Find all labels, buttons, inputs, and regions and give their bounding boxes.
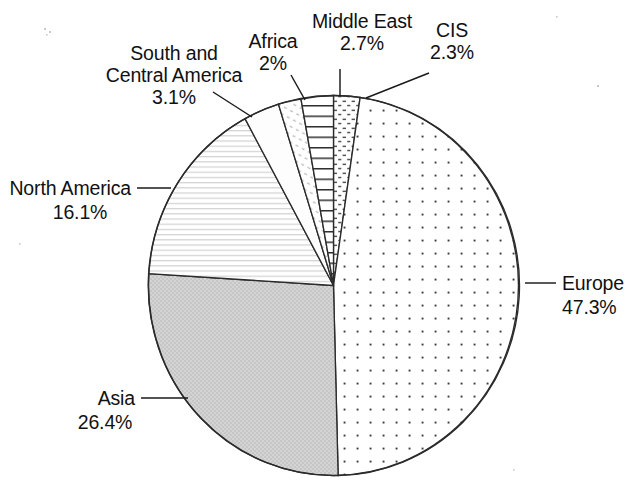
label-europe-percent: 47.3% <box>562 296 617 318</box>
pie-slice-asia[interactable] <box>148 274 338 476</box>
label-africa: Africa <box>249 30 298 52</box>
pie-slices <box>148 95 519 475</box>
label-south-central-america-percent: 3.1% <box>152 86 196 108</box>
label-asia: Asia <box>98 387 136 409</box>
leader-line-africa <box>291 75 305 100</box>
label-north-america: North America <box>9 177 131 199</box>
label-asia-percent: 26.4% <box>78 411 133 433</box>
label-africa-percent: 2% <box>259 52 287 74</box>
leader-line-south-central-america <box>213 92 252 117</box>
label-north-america-percent: 16.1% <box>53 201 108 223</box>
pie-chart-figure: South and Central America 3.1% Africa 2%… <box>0 0 634 496</box>
label-south-central-america-line2: Central America <box>106 64 243 86</box>
label-cis-percent: 2.3% <box>430 41 474 63</box>
label-middle-east-percent: 2.7% <box>340 32 384 54</box>
pie-slice-europe[interactable] <box>334 97 520 475</box>
label-europe: Europe <box>562 272 624 294</box>
label-south-central-america-line1: South and <box>130 42 218 64</box>
pie-chart-svg: South and Central America 3.1% Africa 2%… <box>0 0 634 496</box>
label-cis: CIS <box>436 19 468 41</box>
leader-line-cis <box>366 73 429 98</box>
label-middle-east: Middle East <box>312 10 413 32</box>
